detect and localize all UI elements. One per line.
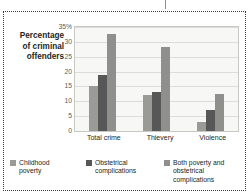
legend-label: Childhoodpoverty (19, 159, 50, 176)
y-axis-tick-label: 25 (64, 53, 72, 60)
bar (215, 94, 224, 131)
bar (143, 95, 152, 131)
legend-label: Obstetricalcomplications (95, 159, 136, 176)
x-axis-tick-label: Total crime (87, 134, 121, 141)
bar (161, 47, 170, 131)
legend-swatch-icon (86, 160, 92, 166)
bar-group (143, 27, 170, 131)
legend-label-line: Both poverty and (173, 159, 242, 167)
legend-swatch-icon (10, 160, 16, 166)
legend-label-line: Obstetrical (95, 159, 136, 167)
bar (98, 75, 107, 131)
y-axis-tick-label: 30 (64, 38, 72, 45)
y-axis-tick-label: 0 (68, 128, 72, 135)
y-axis-tick-label: 35% (58, 24, 72, 31)
legend-label-line: poverty (19, 167, 50, 175)
y-axis-tick-label: 20 (64, 68, 72, 75)
y-axis-tick-label: 15 (64, 83, 72, 90)
x-axis-tick-labels: Total crimeThieveryViolence (74, 134, 239, 141)
bar (152, 92, 161, 131)
legend-label: Both poverty andobstetrical complication… (173, 159, 242, 184)
x-axis-tick-label: Thievery (147, 134, 174, 141)
x-axis-tick-label: Violence (199, 134, 226, 141)
legend-label-line: obstetrical complications (173, 167, 242, 184)
vertical-tick-icon (165, 0, 166, 9)
y-axis-label-line-3: offenders (8, 52, 64, 63)
y-axis-label-line-2: of criminal (8, 42, 64, 53)
bar-group (197, 27, 224, 131)
legend-item[interactable]: Childhoodpoverty (10, 159, 86, 184)
legend-item[interactable]: Both poverty andobstetrical complication… (164, 159, 242, 184)
bar (206, 110, 215, 131)
y-axis-tick-label: 5 (68, 113, 72, 120)
bar (89, 86, 98, 131)
bar (197, 122, 206, 132)
bar-group (89, 27, 116, 131)
legend-item[interactable]: Obstetricalcomplications (86, 159, 164, 184)
plot-area: 05101520253035% (74, 26, 239, 132)
legend-label-line: Childhood (19, 159, 50, 167)
legend-swatch-icon (164, 160, 170, 166)
y-axis-label-line-1: Percentage (8, 31, 64, 42)
y-axis-tick-label: 10 (64, 98, 72, 105)
bar-groups (75, 27, 238, 131)
figure-container: Percentage of criminal offenders 0510152… (0, 0, 250, 194)
bar-chart: Percentage of criminal offenders 0510152… (0, 11, 250, 191)
legend-label-line: complications (95, 167, 136, 175)
bar (107, 34, 116, 131)
y-axis-label: Percentage of criminal offenders (8, 31, 64, 63)
chart-legend: ChildhoodpovertyObstetricalcomplications… (10, 159, 242, 184)
